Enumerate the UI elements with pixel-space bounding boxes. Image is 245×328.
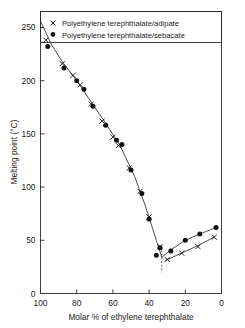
y-tick-label: 150 <box>22 129 36 139</box>
data-points-sebacate <box>45 44 218 258</box>
x-tick-label: 20 <box>181 298 191 308</box>
data-point-sebacate <box>45 44 50 49</box>
chart-figure: Polyethylene terephthalate/adipate Polye… <box>0 0 245 328</box>
data-point-sebacate <box>197 231 202 236</box>
data-point-sebacate <box>168 248 173 253</box>
x-tick-label: 80 <box>72 298 82 308</box>
data-point-sebacate <box>157 245 162 250</box>
data-point-adipate <box>179 250 184 255</box>
legend: Polyethylene terephthalate/adipate Polye… <box>41 12 222 43</box>
data-point-sebacate <box>62 65 67 70</box>
x-tick-label: 40 <box>144 298 154 308</box>
legend-marker-dot <box>51 32 56 37</box>
data-point-sebacate <box>74 78 79 83</box>
y-tick-label: 50 <box>26 235 36 245</box>
data-point-adipate <box>212 235 217 240</box>
legend-marker-cross <box>51 21 56 26</box>
data-point-sebacate <box>214 225 219 230</box>
data-point-sebacate <box>119 142 124 147</box>
legend-label-sebacate: Polyethylene terephthalate/sebacate <box>62 31 185 40</box>
x-axis-title: Molar % of ethylene terephthalate <box>68 312 194 322</box>
data-point-sebacate <box>183 238 188 243</box>
y-tick-label: 200 <box>22 76 36 86</box>
phase-diagram-plot: Polyethylene terephthalate/adipate Polye… <box>0 0 245 328</box>
x-tick-label: 100 <box>34 298 48 308</box>
data-point-sebacate <box>154 253 159 258</box>
y-axis-title: Melting point (°C) <box>9 119 19 184</box>
data-point-adipate <box>70 73 75 78</box>
liquidus-curve <box>41 21 162 257</box>
y-tick-label: 250 <box>22 22 36 32</box>
x-tick-label: 60 <box>108 298 118 308</box>
legend-label-adipate: Polyethylene terephthalate/adipate <box>62 19 179 28</box>
y-tick-label: 100 <box>22 182 36 192</box>
curves <box>41 21 217 272</box>
axes <box>41 12 222 294</box>
data-point-adipate <box>165 257 170 262</box>
x-tick-label: 0 <box>219 298 224 308</box>
y-axis-ticks: 050100150200250 <box>22 22 45 298</box>
x-axis-ticks: 100806040200 <box>34 290 225 308</box>
